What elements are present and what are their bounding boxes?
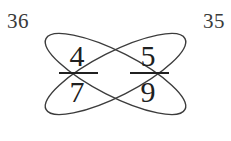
cross-product-label-right: 35 xyxy=(203,11,225,32)
ellipse-group xyxy=(36,19,195,129)
ellipse-rising-icon xyxy=(36,19,195,129)
numerator-right: 5 xyxy=(135,41,161,71)
numerator-left: 4 xyxy=(64,41,90,71)
denominator-right: 9 xyxy=(135,77,161,107)
ellipse-falling-icon xyxy=(36,19,195,129)
cross-product-label-left: 36 xyxy=(7,11,29,32)
denominator-left: 7 xyxy=(64,77,90,107)
diagram-canvas: 36 35 4 5 7 9 xyxy=(0,0,231,141)
cross-multiplication-diagram xyxy=(0,0,231,141)
